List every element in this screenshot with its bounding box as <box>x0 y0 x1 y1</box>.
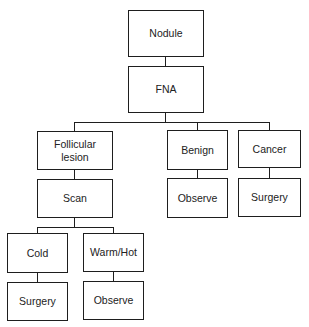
node-warm-observe: Observe <box>83 281 144 320</box>
node-benign-label: Benign <box>181 144 214 157</box>
node-warm-hot-label: Warm/Hot <box>90 246 137 259</box>
connector-cold-surgery <box>37 273 38 282</box>
connector-warm-observe <box>113 272 114 281</box>
connector-scan-branch <box>37 227 114 228</box>
connector-nodule-fna <box>165 57 166 66</box>
connector-follicular-scan <box>74 170 75 179</box>
node-cancer-surgery-label: Surgery <box>251 191 288 204</box>
node-fna-label: FNA <box>156 83 177 96</box>
node-cold-surgery-label: Surgery <box>19 295 56 308</box>
node-benign-observe-label: Observe <box>178 192 218 205</box>
node-nodule-label: Nodule <box>149 27 182 40</box>
connector-scan-down <box>74 218 75 227</box>
connector-to-benign <box>197 122 198 130</box>
connector-fna-branch <box>74 122 270 123</box>
connector-to-cancer <box>269 122 270 130</box>
node-cold: Cold <box>7 233 68 273</box>
node-cancer: Cancer <box>238 130 301 168</box>
connector-cancer-surgery <box>269 168 270 178</box>
node-scan-label: Scan <box>63 192 87 205</box>
node-warm-observe-label: Observe <box>94 294 134 307</box>
node-warm-hot: Warm/Hot <box>83 233 144 272</box>
connector-to-follicular <box>74 122 75 131</box>
node-fna: FNA <box>128 66 204 113</box>
node-follicular-lesion: Follicular lesion <box>37 131 113 170</box>
node-cold-surgery: Surgery <box>7 282 68 321</box>
node-cold-label: Cold <box>27 247 49 260</box>
node-follicular-lesion-label: Follicular lesion <box>54 138 96 164</box>
node-cancer-surgery: Surgery <box>238 178 301 217</box>
node-benign-observe: Observe <box>167 178 228 218</box>
node-scan: Scan <box>37 179 113 218</box>
node-nodule: Nodule <box>128 10 204 57</box>
node-benign: Benign <box>167 130 228 170</box>
connector-benign-observe <box>197 170 198 178</box>
node-cancer-label: Cancer <box>253 143 287 156</box>
connector-fna-down <box>165 113 166 122</box>
